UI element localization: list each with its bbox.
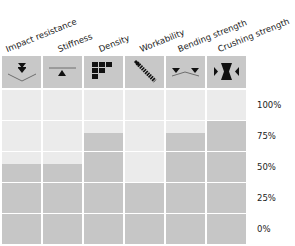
bar-fill — [207, 121, 246, 151]
grid-cell — [207, 183, 246, 213]
bar-fill — [84, 152, 123, 182]
bar-fill — [125, 183, 164, 213]
bar-fill — [166, 152, 205, 182]
grid-cell — [207, 152, 246, 182]
grid-cell — [207, 90, 246, 120]
grid-cell — [84, 152, 123, 182]
bar-fill — [84, 214, 123, 244]
y-tick-75: 75% — [257, 131, 276, 141]
bar-fill — [166, 214, 205, 244]
column-label-crushing-strength: Crushing strength — [216, 16, 290, 54]
grid-cell — [166, 121, 205, 151]
grid-cell — [166, 214, 205, 244]
grid-cell — [43, 90, 82, 120]
grid-cell — [43, 121, 82, 151]
bar-fill — [166, 183, 205, 213]
grid-cell — [2, 152, 41, 182]
grid-cell — [125, 214, 164, 244]
column-label-density: Density — [97, 33, 131, 54]
grid-cell — [84, 121, 123, 151]
bar-fill — [2, 183, 41, 213]
bar-fill — [125, 214, 164, 244]
bar-fill — [207, 214, 246, 244]
y-tick-25: 25% — [257, 193, 276, 203]
bar-fill — [2, 214, 41, 244]
bar-fill — [207, 152, 246, 182]
y-tick-0: 0% — [257, 224, 271, 234]
y-tick-100: 100% — [257, 100, 281, 110]
grid-cell — [207, 214, 246, 244]
grid-cell — [125, 183, 164, 213]
bar-fill — [2, 164, 41, 182]
grid-cell — [207, 121, 246, 151]
grid-cell — [43, 183, 82, 213]
grid-cell — [43, 214, 82, 244]
grid-cell — [2, 121, 41, 151]
stiffness-icon — [43, 56, 82, 88]
grid-cell — [2, 183, 41, 213]
grid-cell — [84, 214, 123, 244]
y-tick-50: 50% — [257, 162, 276, 172]
grid-cell — [125, 121, 164, 151]
grid-cell — [2, 90, 41, 120]
bar-fill — [43, 214, 82, 244]
column-label-stiffness: Stiffness — [56, 31, 94, 54]
grid-cell — [166, 152, 205, 182]
bar-fill — [84, 133, 123, 151]
crushing-icon — [207, 56, 246, 88]
bar-fill — [43, 183, 82, 213]
grid-cell — [2, 214, 41, 244]
bar-fill — [207, 183, 246, 213]
grid-cell — [166, 183, 205, 213]
workability-icon — [125, 56, 164, 88]
grid-cell — [84, 183, 123, 213]
bar-fill — [166, 133, 205, 151]
grid-cell — [125, 90, 164, 120]
impact-icon — [2, 56, 41, 88]
bar-fill — [84, 183, 123, 213]
density-icon — [84, 56, 123, 88]
grid-cell — [125, 152, 164, 182]
bending-icon — [166, 56, 205, 88]
grid-cell — [84, 90, 123, 120]
grid-cell — [43, 152, 82, 182]
grid-cell — [166, 90, 205, 120]
bar-fill — [43, 164, 82, 182]
